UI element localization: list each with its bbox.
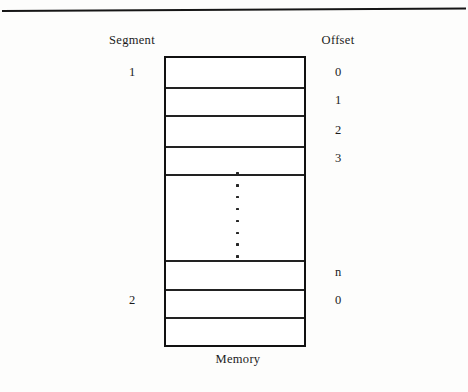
ellipsis-dot (236, 220, 239, 223)
segment-number-label-1: 2 (105, 293, 159, 308)
ellipsis-dot (236, 172, 239, 175)
memory-cell-divider (166, 87, 304, 89)
ellipsis-dot (236, 196, 239, 199)
memory-cell-divider (166, 289, 304, 291)
offset-number-label-4: n (311, 265, 365, 280)
ellipsis-dot (236, 232, 239, 235)
memory-cell-divider (166, 146, 304, 148)
figure-root: Segment Offset 12 0123n0 Memory (0, 0, 468, 392)
memory-cell-divider (166, 115, 304, 117)
offset-number-label-2: 2 (311, 123, 365, 138)
offset-number-label-1: 1 (311, 93, 365, 108)
ellipsis-dot (236, 255, 239, 258)
offset-column-heading: Offset (299, 33, 377, 48)
segment-number-label-0: 1 (105, 65, 159, 80)
memory-caption: Memory (178, 352, 298, 367)
ellipsis-dot (236, 184, 239, 187)
memory-cell-divider (166, 317, 304, 319)
ellipsis-dot (236, 243, 239, 246)
offset-number-label-5: 0 (311, 293, 365, 308)
ellipsis-dot (236, 208, 239, 211)
top-horizontal-rule (2, 8, 466, 12)
offset-number-label-3: 3 (311, 151, 365, 166)
offset-number-label-0: 0 (311, 65, 365, 80)
memory-cell-divider (166, 260, 304, 262)
segment-column-heading: Segment (92, 33, 172, 48)
vertical-ellipsis-icon (233, 172, 242, 258)
